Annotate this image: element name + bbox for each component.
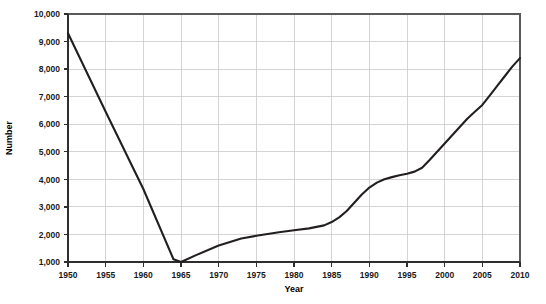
x-tick-label: 2000	[435, 270, 454, 280]
x-tick-label: 2010	[511, 270, 530, 280]
y-tick-label: 8,000	[39, 64, 61, 74]
x-tick-labels: 1950195519601965197019751980198519901995…	[59, 270, 530, 280]
x-tick-label: 2005	[473, 270, 492, 280]
y-tick-label: 1,000	[39, 257, 61, 267]
x-tick-label: 1990	[360, 270, 379, 280]
x-tick-label: 1955	[96, 270, 115, 280]
y-tick-label: 10,000	[34, 9, 60, 19]
y-tick-label: 7,000	[39, 92, 61, 102]
y-tick-label: 6,000	[39, 119, 61, 129]
x-tick-label: 1970	[209, 270, 228, 280]
gridlines	[68, 14, 520, 262]
y-axis-title: Number	[4, 121, 14, 156]
y-tick-label: 5,000	[39, 147, 61, 157]
y-tick-labels: 1,0002,0003,0004,0005,0006,0007,0008,000…	[34, 9, 60, 267]
y-tick-label: 2,000	[39, 230, 61, 240]
y-tick-label: 3,000	[39, 202, 61, 212]
x-tick-label: 1950	[59, 270, 78, 280]
x-tick-label: 1980	[285, 270, 304, 280]
tick-marks	[64, 14, 520, 267]
chart-svg: 1,0002,0003,0004,0005,0006,0007,0008,000…	[0, 0, 546, 304]
line-chart: 1,0002,0003,0004,0005,0006,0007,0008,000…	[0, 0, 546, 304]
y-tick-label: 4,000	[39, 175, 61, 185]
x-tick-label: 1965	[172, 270, 191, 280]
x-tick-label: 1960	[134, 270, 153, 280]
x-axis-title: Year	[284, 284, 304, 294]
x-tick-label: 1975	[247, 270, 266, 280]
x-tick-label: 1995	[398, 270, 417, 280]
y-tick-label: 9,000	[39, 37, 61, 47]
x-tick-label: 1985	[322, 270, 341, 280]
